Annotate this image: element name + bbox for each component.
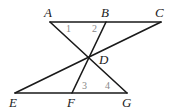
diagram-svg: ABCDEFG 1234: [0, 0, 172, 111]
point-label-g: G: [122, 95, 132, 110]
angle-label-1: 1: [66, 23, 71, 34]
point-label-a: A: [43, 5, 52, 20]
point-label-f: F: [66, 95, 76, 110]
point-label-b: B: [101, 5, 109, 20]
segments: [15, 22, 161, 93]
point-label-d: D: [98, 52, 109, 67]
geometry-diagram: ABCDEFG 1234: [0, 0, 172, 111]
angle-label-3: 3: [82, 80, 87, 91]
angle-label-2: 2: [92, 23, 97, 34]
point-label-e: E: [8, 95, 17, 110]
point-label-c: C: [155, 5, 164, 20]
angle-label-4: 4: [105, 80, 110, 91]
point-labels: ABCDEFG: [8, 5, 164, 110]
segment-ce: [15, 22, 161, 93]
